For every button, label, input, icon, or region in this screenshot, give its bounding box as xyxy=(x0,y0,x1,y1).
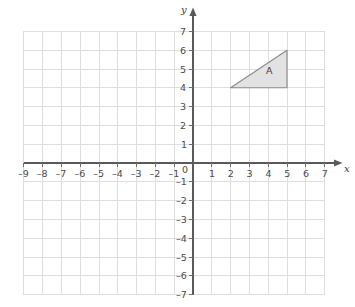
x-tick-label--8: –8 xyxy=(37,169,48,179)
x-tick-label--7: –7 xyxy=(56,169,67,179)
y-tick-label--1: –1 xyxy=(176,177,187,187)
x-tick-label-5: 5 xyxy=(284,169,290,179)
y-tick-label-2: 2 xyxy=(180,121,186,131)
y-axis-arrow xyxy=(189,8,196,17)
y-tick-label--7: –7 xyxy=(176,290,187,300)
y-tick-label-3: 3 xyxy=(180,102,186,112)
x-tick-label-4: 4 xyxy=(265,169,271,179)
y-tick-label-6: 6 xyxy=(180,46,186,56)
x-tick-label--4: –4 xyxy=(112,169,123,179)
x-axis-arrow xyxy=(334,159,343,166)
x-tick-label--5: –5 xyxy=(93,169,104,179)
y-tick-label--2: –2 xyxy=(176,196,187,206)
coordinate-plane-figure: –9 –8 –7 –6 –5 –4 –3 –2 –1 1 2 3 4 5 6 7… xyxy=(0,0,355,307)
x-tick-label-7: 7 xyxy=(322,169,328,179)
x-tick-label--9: –9 xyxy=(18,169,29,179)
y-tick-label-1: 1 xyxy=(181,140,187,150)
y-tick-label--4: –4 xyxy=(176,234,187,244)
y-tick-label-4: 4 xyxy=(180,83,186,93)
y-axis-label: y xyxy=(181,5,187,15)
y-tick-label--6: –6 xyxy=(176,271,187,281)
y-tick-label--5: –5 xyxy=(176,253,187,263)
origin-label: 0 xyxy=(182,165,188,175)
x-tick-label-6: 6 xyxy=(303,169,309,179)
y-tick-label-5: 5 xyxy=(180,65,186,75)
x-tick-label--3: –3 xyxy=(131,169,142,179)
x-axis-label: x xyxy=(344,164,350,174)
x-tick-label--6: –6 xyxy=(74,169,85,179)
shape-label-a: A xyxy=(266,66,273,76)
x-tick-label-2: 2 xyxy=(228,169,234,179)
y-tick-label--3: –3 xyxy=(176,215,187,225)
x-tick-label--2: –2 xyxy=(150,169,161,179)
x-tick-label-1: 1 xyxy=(209,169,215,179)
y-tick-label-7: 7 xyxy=(180,27,186,37)
x-tick-label-3: 3 xyxy=(247,169,253,179)
